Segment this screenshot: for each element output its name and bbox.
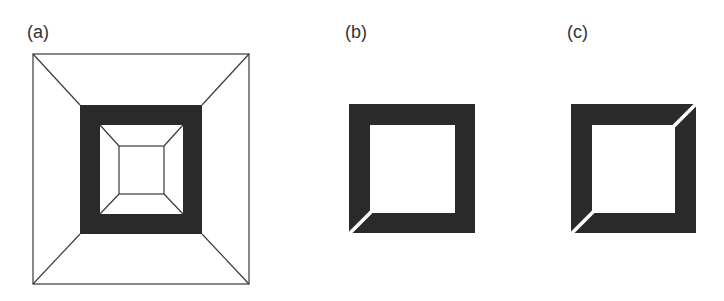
panel-b [347, 104, 475, 236]
panel-a-dark-band [80, 105, 202, 234]
panel-a [33, 54, 249, 284]
panel-a-inner-edge-tr [164, 125, 183, 146]
panel-a-inner-edge-br [164, 194, 183, 214]
diagram-canvas [0, 0, 724, 301]
panel-a-innermost-square [119, 146, 164, 194]
panel-a-edge-br [202, 234, 249, 284]
panel-a-inner-edge-tl [100, 125, 119, 146]
panel-a-edge-tl [33, 54, 80, 105]
panel-a-edge-tr [202, 54, 249, 105]
panel-a-inner-edge-bl [100, 194, 119, 214]
panel-a-edge-bl [33, 234, 80, 284]
panel-c [569, 101, 699, 236]
